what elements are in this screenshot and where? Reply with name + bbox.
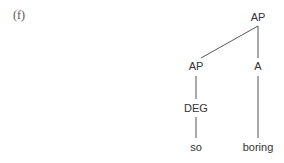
node-a: A bbox=[254, 61, 261, 72]
edge-root-ap bbox=[201, 26, 258, 58]
tree-edges bbox=[0, 0, 284, 163]
node-deg: DEG bbox=[184, 103, 208, 114]
leaf-so: so bbox=[190, 142, 202, 153]
node-ap: AP bbox=[189, 61, 204, 72]
node-root-ap: AP bbox=[251, 12, 266, 23]
leaf-boring: boring bbox=[243, 142, 274, 153]
